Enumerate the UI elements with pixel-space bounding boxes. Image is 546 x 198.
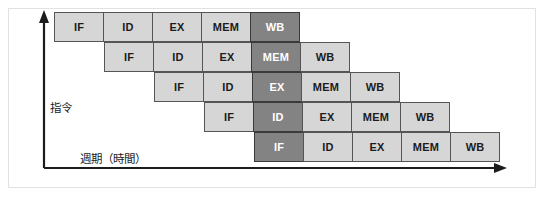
pipeline-stage-cell: ID — [153, 42, 203, 72]
pipeline-row-2: IF ID EX MEM WB — [104, 42, 350, 72]
pipeline-stage-cell: EX — [152, 12, 202, 42]
pipeline-stage-cell: ID — [303, 132, 353, 162]
pipeline-stage-cell: IF — [154, 72, 204, 102]
pipeline-stage-cell: WB — [450, 132, 500, 162]
pipeline-grid: IF ID EX MEM WB IF ID EX MEM WB IF ID EX… — [0, 0, 546, 198]
pipeline-row-3: IF ID EX MEM WB — [154, 72, 400, 102]
pipeline-stage-cell: WB — [400, 102, 450, 132]
pipeline-stage-cell: IF — [54, 12, 104, 42]
x-axis-label: 週期（時間） — [80, 150, 146, 166]
pipeline-row-1: IF ID EX MEM WB — [54, 12, 300, 42]
pipeline-stage-cell: EX — [352, 132, 402, 162]
pipeline-row-5: IF ID EX MEM WB — [254, 132, 500, 162]
pipeline-stage-cell: IF — [204, 102, 254, 132]
pipeline-stage-cell: WB — [350, 72, 400, 102]
pipeline-stage-cell-highlight: MEM — [251, 42, 301, 72]
pipeline-stage-cell: ID — [203, 72, 253, 102]
pipeline-figure: IF ID EX MEM WB IF ID EX MEM WB IF ID EX… — [0, 0, 546, 198]
pipeline-stage-cell-highlight: ID — [253, 102, 303, 132]
pipeline-stage-cell: EX — [302, 102, 352, 132]
pipeline-stage-cell: MEM — [201, 12, 251, 42]
pipeline-stage-cell: MEM — [351, 102, 401, 132]
pipeline-stage-cell: IF — [104, 42, 154, 72]
pipeline-stage-cell: ID — [103, 12, 153, 42]
pipeline-stage-cell: MEM — [401, 132, 451, 162]
pipeline-stage-cell: EX — [202, 42, 252, 72]
pipeline-stage-cell-highlight: IF — [254, 132, 304, 162]
pipeline-stage-cell-highlight: EX — [252, 72, 302, 102]
y-axis-label: 指令 — [50, 99, 72, 115]
pipeline-stage-cell: MEM — [301, 72, 351, 102]
pipeline-stage-cell-highlight: WB — [250, 12, 300, 42]
pipeline-row-4: IF ID EX MEM WB — [204, 102, 450, 132]
pipeline-stage-cell: WB — [300, 42, 350, 72]
